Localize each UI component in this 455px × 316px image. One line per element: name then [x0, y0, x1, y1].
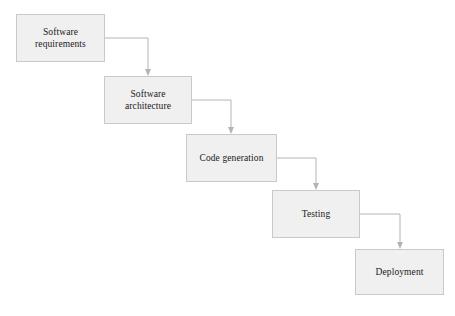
node-deployment[interactable]: Deployment	[355, 249, 444, 295]
node-label-testing: Testing	[299, 208, 334, 221]
connector-line-architecture-to-code-generation	[192, 100, 231, 127]
connector-line-testing-to-deployment	[360, 214, 400, 242]
node-testing[interactable]: Testing	[272, 190, 360, 238]
node-software-requirements[interactable]: Software requirements	[16, 14, 105, 62]
arrowhead-testing-to-deployment	[397, 242, 403, 249]
connector-line-requirements-to-architecture	[105, 38, 148, 69]
arrowhead-requirements-to-architecture	[145, 69, 151, 76]
node-code-generation[interactable]: Code generation	[186, 134, 277, 182]
node-label-software-requirements: Software requirements	[32, 26, 89, 51]
arrowhead-architecture-to-code-generation	[228, 127, 234, 134]
arrowhead-code-generation-to-testing	[313, 183, 319, 190]
node-label-software-architecture: Software architecture	[122, 88, 174, 113]
waterfall-diagram: Software requirements Software architect…	[0, 0, 455, 316]
node-label-code-generation: Code generation	[196, 152, 266, 165]
connector-line-code-generation-to-testing	[277, 158, 316, 183]
node-label-deployment: Deployment	[373, 266, 427, 279]
node-software-architecture[interactable]: Software architecture	[104, 76, 192, 124]
